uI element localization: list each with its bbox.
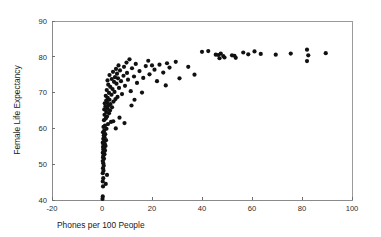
- data-point: [246, 52, 250, 56]
- data-point: [129, 89, 133, 93]
- y-tick-label: 90: [39, 17, 47, 26]
- data-point: [118, 68, 122, 72]
- data-point: [114, 126, 118, 130]
- data-point: [106, 83, 110, 87]
- data-point: [167, 65, 171, 69]
- data-point: [116, 63, 120, 67]
- y-tick-label: 70: [39, 88, 47, 97]
- data-point: [132, 74, 136, 78]
- data-point: [144, 64, 148, 68]
- data-point: [126, 78, 130, 82]
- data-point: [241, 50, 245, 54]
- scatter-plot-figure: 405060708090-20020406080100 Phones per 1…: [0, 0, 381, 237]
- x-tick-label: -20: [47, 204, 58, 213]
- data-point: [177, 76, 181, 80]
- data-point: [186, 65, 190, 69]
- data-point: [252, 49, 256, 53]
- data-point: [141, 76, 145, 80]
- data-point: [147, 72, 151, 76]
- data-point: [305, 59, 309, 63]
- data-point: [122, 121, 126, 125]
- data-point: [107, 73, 111, 77]
- data-point: [124, 60, 128, 64]
- data-point: [114, 67, 118, 71]
- data-point: [115, 72, 119, 76]
- data-point: [155, 79, 159, 83]
- data-point: [164, 83, 168, 87]
- data-point: [206, 49, 210, 53]
- x-tick-label: 40: [198, 204, 206, 213]
- data-point: [101, 176, 105, 180]
- data-point: [113, 75, 117, 79]
- data-point: [111, 119, 115, 123]
- data-point: [115, 95, 119, 99]
- y-tick-label: 60: [39, 124, 47, 133]
- data-point: [146, 59, 150, 63]
- data-point: [104, 94, 108, 98]
- data-point: [140, 91, 144, 95]
- data-point: [120, 92, 124, 96]
- data-point: [123, 84, 127, 88]
- data-point: [157, 63, 161, 67]
- axis-tick-labels: 405060708090-20020406080100: [39, 17, 359, 213]
- data-point: [217, 56, 221, 60]
- data-point: [274, 53, 278, 57]
- x-tick-label: 80: [298, 204, 306, 213]
- data-point: [152, 68, 156, 72]
- data-point: [135, 81, 139, 85]
- data-point: [200, 50, 204, 54]
- data-point: [105, 173, 109, 177]
- data-point: [150, 63, 154, 67]
- y-tick-label: 80: [39, 53, 47, 62]
- data-point: [121, 74, 125, 78]
- data-point: [125, 71, 129, 75]
- data-point: [174, 60, 178, 64]
- x-tick-label: 60: [248, 204, 256, 213]
- data-point: [129, 103, 133, 107]
- data-point: [132, 98, 136, 102]
- data-point: [161, 70, 165, 74]
- y-axis-title: Female Life Expectancy: [12, 65, 22, 155]
- data-point: [117, 86, 121, 90]
- data-point: [105, 78, 109, 82]
- data-point: [305, 48, 309, 52]
- data-point: [259, 52, 263, 56]
- x-tick-label: 0: [100, 204, 104, 213]
- x-axis-title: Phones per 100 People: [57, 220, 145, 230]
- y-tick-label: 50: [39, 160, 47, 169]
- plot-svg: 405060708090-20020406080100 Phones per 1…: [0, 0, 381, 237]
- data-point: [122, 65, 126, 69]
- x-tick-label: 20: [148, 204, 156, 213]
- data-point: [192, 73, 196, 77]
- data-point: [222, 55, 226, 59]
- data-point: [306, 53, 310, 57]
- data-point: [324, 51, 328, 55]
- data-points: [100, 48, 327, 201]
- data-point: [117, 116, 121, 120]
- data-point: [165, 61, 169, 65]
- data-point: [234, 56, 238, 60]
- data-point: [289, 51, 293, 55]
- data-point: [137, 69, 141, 73]
- data-point: [134, 62, 138, 66]
- data-point: [101, 194, 105, 198]
- data-point: [105, 88, 109, 92]
- x-tick-label: 100: [346, 204, 359, 213]
- data-point: [104, 182, 108, 186]
- data-point: [127, 57, 131, 61]
- data-point: [130, 66, 134, 70]
